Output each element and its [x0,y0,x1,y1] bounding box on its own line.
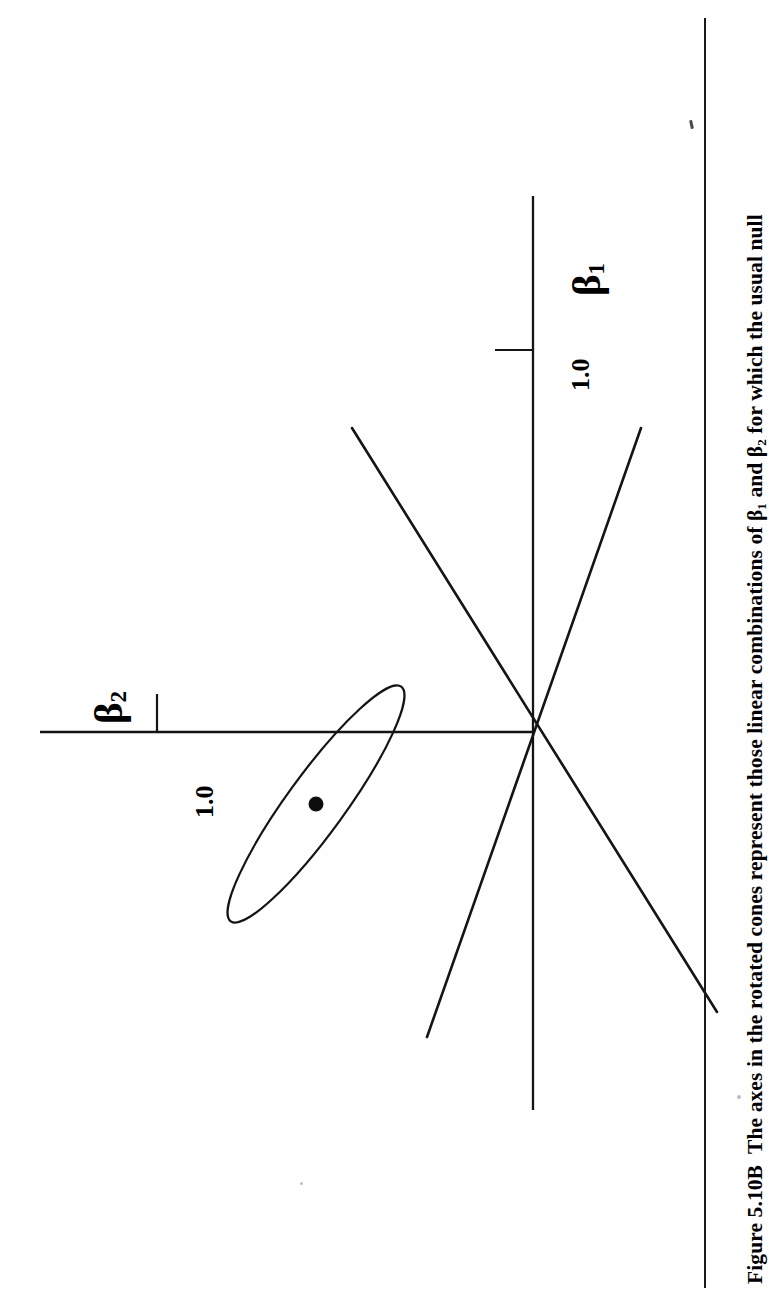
beta2-subscript: 2 [106,691,131,703]
page-edge-rule [704,18,706,1288]
figure-plot-area [0,0,769,1300]
figure-svg [0,0,769,1300]
beta2-glyph: β [85,702,131,724]
cone-line-a [352,428,717,1012]
scan-speck [300,1182,303,1185]
figure-caption-text: Figure 5.10B The axes in the rotated con… [742,26,769,1284]
scan-speck [737,1095,741,1099]
estimate-point [309,797,324,812]
axis-label-beta1: β1 [566,263,608,296]
scanned-page: β1 β2 1.0 1.0 Figure 5.10B The axes in t… [0,0,769,1300]
beta1-subscript: 1 [584,263,609,275]
beta1-tick-label: 1.0 [566,359,596,392]
caption-figure-number: Figure 5.10B [743,1165,767,1284]
beta2-tick-label: 1.0 [190,786,220,819]
beta1-glyph: β [563,274,609,296]
caption-body-text: The axes in the rotated cones represent … [743,214,767,1154]
axis-label-beta2: β2 [88,691,130,724]
figure-caption: Figure 5.10B The axes in the rotated con… [742,26,769,1284]
